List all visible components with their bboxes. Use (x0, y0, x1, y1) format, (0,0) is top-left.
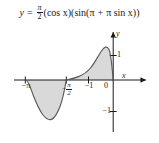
x-tick-label-origin: 0 (101, 82, 111, 90)
plot-area: x y −π − π 2 −1 0 1 −1 (0, 24, 159, 143)
equation-inner-pi: π (89, 8, 94, 18)
x-axis-arrowhead (141, 77, 147, 82)
y-tick-label-one: 1 (117, 51, 127, 59)
x-tick-frac-denominator: 2 (66, 89, 72, 97)
shaded-region-positive (66, 47, 113, 80)
y-axis-label: y (116, 30, 120, 38)
equation-equals: = (27, 8, 33, 18)
equation-coef-numerator: π (37, 4, 43, 12)
y-tick-label-neg-one: −1 (99, 107, 111, 115)
equation-lhs: y (19, 8, 23, 18)
x-axis-label: x (122, 72, 126, 80)
equation-factor-sin-close: )) (133, 8, 140, 18)
equation-coefficient-fraction: π 2 (37, 4, 43, 22)
figure-container: y = π 2 (cos x) (sin( π + π sin x )) (0, 0, 159, 143)
x-tick-frac-numerator: π (66, 82, 72, 89)
equation-factor-cos: (cos x) (44, 8, 72, 18)
x-tick-label-neg-pi-over-2: − π 2 (58, 82, 76, 98)
equation-inner-plus: + (97, 8, 103, 18)
equation-inner-pi-sin-x: π sin x (106, 8, 133, 18)
equation-factor-sin-open: (sin( (71, 8, 89, 18)
equation-label: y = π 2 (cos x) (sin( π + π sin x )) (0, 4, 159, 22)
equation-coef-denominator: 2 (37, 12, 43, 21)
x-tick-label-neg-one: −1 (81, 82, 97, 90)
x-tick-label-neg-pi: −π (18, 82, 34, 90)
